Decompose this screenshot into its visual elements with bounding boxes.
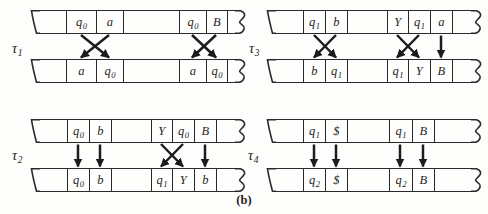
tape-cell: Y: [387, 11, 408, 33]
tape-cell-empty: [276, 120, 303, 142]
figure-caption: (b): [0, 193, 488, 208]
tape-cell-empty: [227, 11, 235, 33]
tau3-arrows: [266, 34, 483, 59]
tape-cell: b: [89, 120, 111, 142]
tape-cell: B: [194, 120, 216, 142]
tape-torn-edge-right-icon: [235, 119, 247, 143]
tape-cell: q1: [151, 169, 172, 191]
tape-cell-empty: [40, 11, 66, 33]
tape-cell: B: [412, 120, 434, 142]
tau3-label: τ3: [249, 40, 259, 57]
tape-cell: B: [206, 11, 227, 33]
tau4-top-tape: q1 $ q1 B: [266, 119, 483, 143]
tape-cell: q0: [96, 60, 123, 82]
cell-symbol: a: [190, 65, 197, 78]
tape-torn-edge-right-icon: [235, 168, 247, 192]
tape-cell-empty: [123, 11, 179, 33]
tape-cell-empty: [347, 60, 387, 82]
cell-symbol: q1: [157, 174, 168, 187]
tape-torn-edge-left-icon: [266, 119, 276, 143]
tau4-label-sub: 4: [254, 155, 259, 165]
cell-symbol: B: [437, 65, 445, 78]
tape-cell: q1: [408, 11, 430, 33]
tape-cells: q0 b Y q0 B: [40, 119, 235, 143]
tape-cell: b: [303, 60, 325, 82]
tape-cell: q1: [325, 60, 347, 82]
tape-cell: $: [325, 120, 347, 142]
tape-cell: q2: [389, 169, 412, 191]
tape-cell: Y: [151, 120, 172, 142]
tau1-label-sub: 1: [18, 48, 23, 58]
tape-torn-edge-left-icon: [266, 10, 276, 34]
cell-symbol: B: [201, 125, 209, 138]
tau4-label-base: τ: [248, 147, 253, 163]
tape-cell: b: [89, 169, 111, 191]
tape-cell-empty: [216, 120, 235, 142]
cell-symbol: $: [333, 125, 340, 138]
tau2-arrows: [30, 143, 247, 168]
tau3-top-tape: q1 b Y q1 a: [266, 10, 483, 34]
tape-cell: a: [96, 11, 123, 33]
tape-torn-edge-left-icon: [30, 119, 40, 143]
cell-symbol: Y: [394, 16, 401, 29]
tape-cell: q0: [67, 120, 89, 142]
tape-cell: q2: [303, 169, 325, 191]
tau2-label-sub: 2: [18, 155, 23, 165]
tape-torn-edge-left-icon: [266, 168, 276, 192]
tau2-label-base: τ: [12, 147, 17, 163]
cell-symbol: b: [311, 65, 318, 78]
cell-symbol: b: [97, 125, 104, 138]
tape-cell: a: [430, 11, 452, 33]
tau4-arrows: [266, 143, 483, 168]
tape-cell: Y: [172, 169, 194, 191]
figure-turing-tape-diagram: τ1 q0 a q0 B a q0 a: [0, 0, 488, 214]
tape-cell: q0: [179, 11, 206, 33]
cell-symbol: q1: [331, 65, 342, 78]
tape-torn-edge-left-icon: [30, 168, 40, 192]
cell-symbol: a: [78, 65, 85, 78]
tape-cell-empty: [452, 11, 471, 33]
tape-torn-edge-right-icon: [235, 59, 247, 83]
tape-torn-edge-right-icon: [471, 119, 483, 143]
tape-cell-empty: [347, 169, 389, 191]
cell-symbol: q2: [309, 174, 320, 187]
tape-cells: a q0 a q0: [40, 59, 235, 83]
cell-symbol: $: [333, 174, 340, 187]
cell-symbol: Y: [180, 174, 187, 187]
tape-cell: q0: [206, 60, 227, 82]
cell-symbol: q0: [76, 16, 87, 29]
tape-cell: q1: [389, 120, 412, 142]
tape-cell-empty: [276, 60, 303, 82]
tape-cell: q0: [66, 11, 96, 33]
tape-cell-empty: [111, 169, 151, 191]
tape-cells: q0 a q0 B: [40, 10, 235, 34]
tau3-label-base: τ: [249, 40, 254, 56]
tape-cell: b: [194, 169, 216, 191]
tape-cells: b q1 q1 Y B: [276, 59, 471, 83]
cell-symbol: Y: [416, 65, 423, 78]
cell-symbol: B: [419, 174, 427, 187]
tape-cell-empty: [40, 169, 67, 191]
tau4-label: τ4: [248, 147, 258, 164]
tape-cell: q0: [172, 120, 194, 142]
tape-cell-empty: [123, 60, 179, 82]
cell-symbol: B: [419, 125, 427, 138]
tape-torn-edge-left-icon: [30, 10, 40, 34]
cell-symbol: b: [97, 174, 104, 187]
tau2-top-tape: q0 b Y q0 B: [30, 119, 247, 143]
cell-symbol: a: [107, 16, 114, 29]
tape-cell-empty: [40, 60, 66, 82]
cell-symbol: q0: [178, 125, 189, 138]
tau1-label-base: τ: [12, 40, 17, 56]
cell-symbol: Y: [158, 125, 165, 138]
tape-cell: B: [412, 169, 434, 191]
tau1-label: τ1: [12, 40, 22, 57]
tape-cell-empty: [227, 60, 235, 82]
tape-torn-edge-right-icon: [471, 10, 483, 34]
tau4-bottom-tape: q2 $ q2 B: [266, 168, 483, 192]
tape-cell-empty: [434, 169, 471, 191]
tape-cell-empty: [347, 120, 389, 142]
tau1-top-tape: q0 a q0 B: [30, 10, 247, 34]
tau2-label: τ2: [12, 147, 22, 164]
cell-symbol: q0: [212, 65, 223, 78]
